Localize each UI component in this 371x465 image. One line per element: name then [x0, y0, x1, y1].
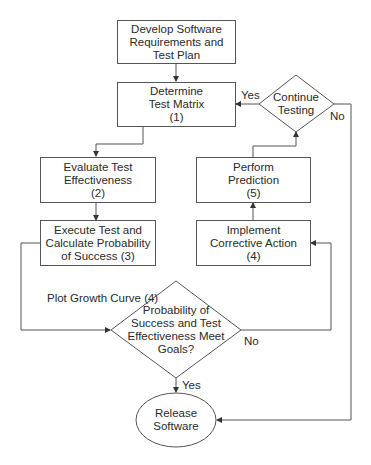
node-text: Implement: [210, 224, 297, 237]
node-text: Execute Test and: [46, 224, 151, 237]
node-text: Release: [155, 407, 197, 420]
release-software-text: Release Software: [140, 405, 212, 435]
edge-label-continue-no: No: [330, 110, 345, 123]
node-text: (1): [149, 111, 205, 124]
edge-label-continue-yes: Yes: [241, 89, 260, 102]
node-text: Testing: [278, 104, 314, 117]
node-text: (2): [64, 187, 133, 200]
node-implement-corrective-action: Implement Corrective Action (4): [196, 220, 311, 266]
node-text: of Success (3): [46, 250, 151, 263]
node-evaluate-effectiveness: Evaluate Test Effectiveness (2): [40, 157, 156, 203]
node-text: (5): [228, 187, 279, 200]
node-text: Determine: [149, 85, 205, 98]
node-develop-requirements: Develop Software Requirements and Test P…: [117, 20, 236, 64]
node-text: Test Plan: [130, 49, 224, 62]
goals-text: Probability of Success and Test Effectiv…: [116, 303, 236, 357]
continue-testing-text: Continue Testing: [262, 88, 330, 120]
edge-determine-evaluate: [96, 126, 143, 156]
node-text: Evaluate Test: [64, 161, 133, 174]
edge-label-goals-no: No: [244, 335, 259, 348]
node-text: Develop Software: [130, 23, 224, 36]
node-text: Corrective Action: [210, 237, 297, 250]
node-text: Requirements and: [130, 36, 224, 49]
edge-label-plot-growth: Plot Growth Curve (4): [47, 292, 158, 305]
edge-label-goals-yes: Yes: [182, 379, 201, 392]
node-text: Prediction: [228, 174, 279, 187]
node-text: Effectiveness: [64, 174, 133, 187]
node-determine-test-matrix: Determine Test Matrix (1): [117, 82, 236, 127]
node-text: Success and Test: [131, 317, 221, 330]
node-text: Perform: [228, 161, 279, 174]
node-text: Continue: [273, 91, 319, 104]
edge-perform-continue: [253, 132, 296, 157]
node-execute-test: Execute Test and Calculate Probability o…: [40, 220, 156, 266]
node-text: Calculate Probability: [46, 237, 151, 250]
node-text: Effectiveness Meet: [128, 330, 225, 343]
node-text: Software: [153, 420, 198, 433]
node-perform-prediction: Perform Prediction (5): [196, 157, 311, 203]
node-text: Probability of: [143, 304, 209, 317]
node-text: (4): [210, 250, 297, 263]
node-text: Test Matrix: [149, 98, 205, 111]
node-text: Goals?: [158, 343, 194, 356]
